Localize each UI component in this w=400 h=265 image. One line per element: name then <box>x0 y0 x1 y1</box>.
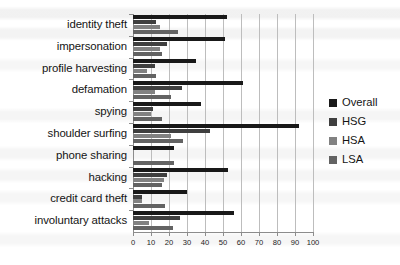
bar <box>133 25 160 29</box>
x-axis-tick-label: 60 <box>237 238 245 247</box>
bar <box>133 30 178 34</box>
x-axis-tick-label: 70 <box>255 238 263 247</box>
legend-color-swatch <box>329 137 337 145</box>
category-label: credit card theft <box>50 193 127 204</box>
category-label: spying <box>95 106 127 117</box>
x-axis-tick-mark <box>259 232 260 236</box>
legend-label: LSA <box>342 154 363 165</box>
x-axis-tick-label: 50 <box>219 238 227 247</box>
gridline <box>169 14 170 232</box>
bar <box>133 74 156 78</box>
bar <box>133 129 210 133</box>
bar <box>133 86 182 90</box>
category-label: impersonation <box>57 41 127 52</box>
bar <box>133 211 234 215</box>
bar <box>133 146 174 150</box>
x-axis-tick-mark <box>151 232 152 236</box>
gridline <box>277 14 278 232</box>
x-axis-tick-mark <box>313 232 314 236</box>
category-label: profile harvesting <box>42 63 127 74</box>
x-axis-tick-mark <box>295 232 296 236</box>
x-axis-tick-mark <box>133 232 134 236</box>
gridline <box>223 14 224 232</box>
bar <box>133 117 162 121</box>
bar <box>133 221 149 225</box>
x-axis-tick-mark <box>205 232 206 236</box>
category-label: shoulder surfing <box>48 128 127 139</box>
gridline <box>259 14 260 232</box>
bar <box>133 190 187 194</box>
category-label: hacking <box>88 172 127 183</box>
gridline <box>313 14 314 232</box>
bar-chart: 0102030405060708090100 identity theftimp… <box>0 0 400 265</box>
category-label: phone sharing <box>56 150 127 161</box>
bar <box>133 112 151 116</box>
x-axis-tick-label: 40 <box>201 238 209 247</box>
bar <box>133 102 201 106</box>
bar <box>133 81 243 85</box>
legend-item: HSA <box>329 131 377 150</box>
legend-item: LSA <box>329 150 377 169</box>
category-label: defamation <box>72 84 127 95</box>
bar <box>133 59 196 63</box>
gridline <box>187 14 188 232</box>
category-label: identity theft <box>67 19 127 30</box>
bar <box>133 173 167 177</box>
gridline <box>205 14 206 232</box>
x-axis-tick-mark <box>277 232 278 236</box>
bar <box>133 64 155 68</box>
category-label: involuntary attacks <box>35 215 127 226</box>
x-axis-tick-label: 100 <box>307 238 320 247</box>
chart-legend: OverallHSGHSALSA <box>329 93 377 169</box>
legend-label: Overall <box>342 97 377 108</box>
x-axis-tick-mark <box>241 232 242 236</box>
bar <box>133 52 162 56</box>
x-axis-tick-mark <box>223 232 224 236</box>
bar <box>133 47 160 51</box>
bar <box>133 139 183 143</box>
bar <box>133 15 227 19</box>
x-axis-tick-label: 20 <box>165 238 173 247</box>
bar <box>133 134 171 138</box>
legend-color-swatch <box>329 99 337 107</box>
x-axis-tick-mark <box>169 232 170 236</box>
bar <box>133 95 171 99</box>
gridline <box>241 14 242 232</box>
legend-item: Overall <box>329 93 377 112</box>
bar <box>133 183 162 187</box>
bar <box>133 161 174 165</box>
gridline <box>295 14 296 232</box>
bar <box>133 216 180 220</box>
legend-label: HSG <box>342 116 366 127</box>
bar <box>133 178 164 182</box>
bar <box>133 195 142 199</box>
x-axis-tick-label: 10 <box>147 238 155 247</box>
x-axis-tick-mark <box>187 232 188 236</box>
x-axis-tick-label: 30 <box>183 238 191 247</box>
bar <box>133 90 155 94</box>
bar <box>133 37 225 41</box>
bar <box>133 168 228 172</box>
bar <box>133 199 142 203</box>
x-axis-tick-label: 90 <box>291 238 299 247</box>
bar <box>133 20 156 24</box>
legend-color-swatch <box>329 156 337 164</box>
bar <box>133 226 173 230</box>
legend-item: HSG <box>329 112 377 131</box>
bar <box>133 124 299 128</box>
bar <box>133 204 165 208</box>
legend-color-swatch <box>329 118 337 126</box>
bar <box>133 107 153 111</box>
x-axis-tick-label: 0 <box>131 238 135 247</box>
bar <box>133 42 167 46</box>
legend-label: HSA <box>342 135 365 146</box>
bar <box>133 69 147 73</box>
x-axis-tick-label: 80 <box>273 238 281 247</box>
